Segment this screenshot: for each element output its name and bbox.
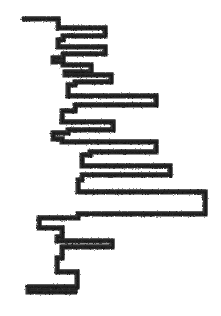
figure-root: Hand-drawn stepped horizontal bar profil…: [0, 0, 221, 316]
figure-background: [0, 0, 221, 316]
sketch-bar-profile-figure: [0, 0, 221, 316]
